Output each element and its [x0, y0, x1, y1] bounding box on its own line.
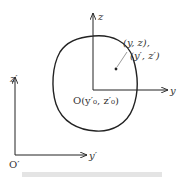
- local-origin-label: O(y′₀, z′₀): [73, 95, 119, 106]
- z-prime-axis-label: z′: [9, 73, 18, 84]
- point-label-global: (y′, z′): [130, 50, 160, 61]
- point-label-local: (y, z),: [123, 37, 150, 48]
- point-leader-line: [117, 52, 127, 67]
- cross-section-region: [53, 36, 137, 131]
- caption-remnant: [22, 172, 162, 177]
- diagram-canvas: z y O(y′₀, z′₀) z′ y′ O′ (y, z), (y′, z′…: [0, 0, 185, 177]
- y-prime-axis-label: y′: [88, 150, 98, 161]
- z-axis-label: z: [97, 11, 104, 22]
- point-marker: [115, 68, 118, 71]
- global-origin-label: O′: [9, 159, 20, 170]
- y-axis-label: y: [169, 85, 176, 96]
